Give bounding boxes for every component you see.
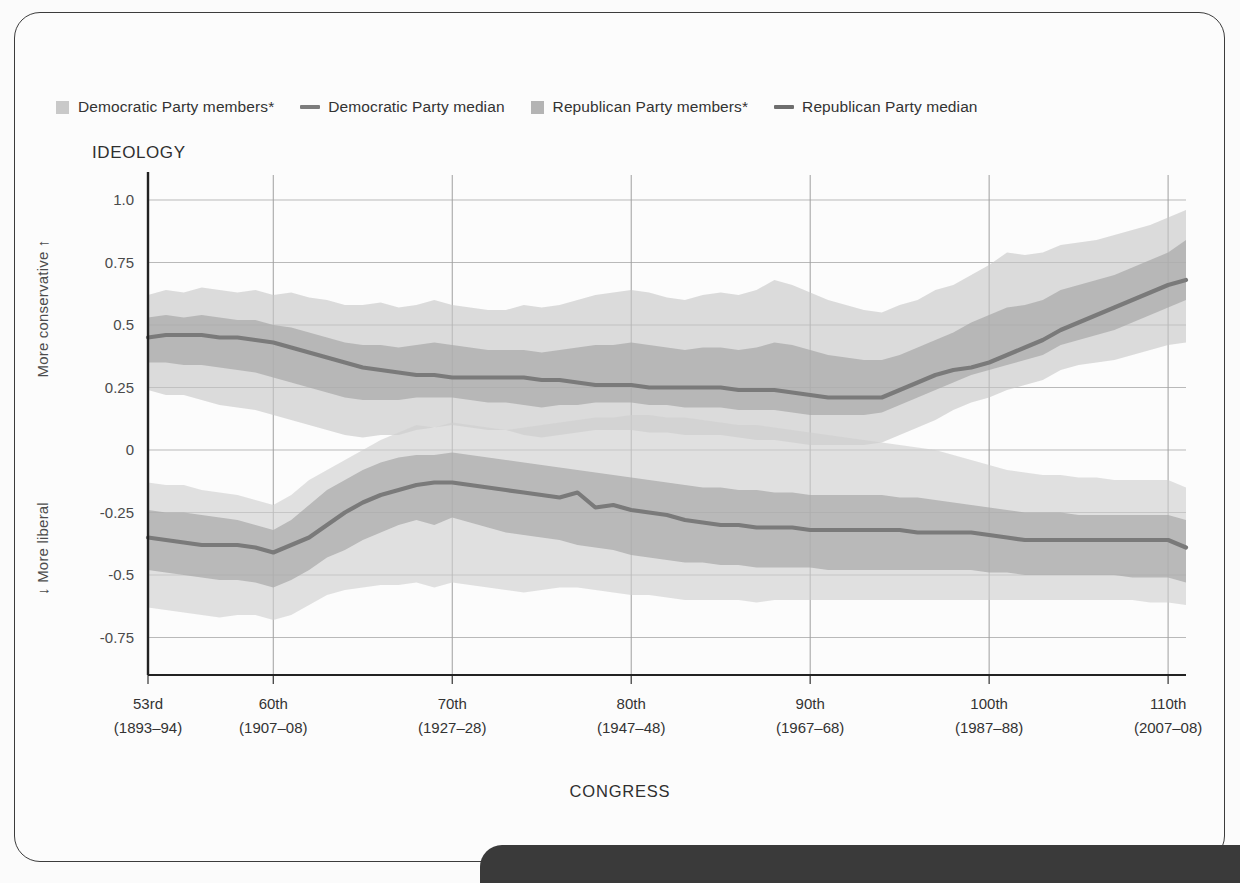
x-axis-tick-years: (1967–68)	[776, 719, 844, 736]
y-axis-tick-label: 1.0	[113, 191, 134, 208]
y-axis-tick-label: 0.25	[105, 379, 134, 396]
x-axis-tick-years: (1987–88)	[955, 719, 1023, 736]
bottom-banner	[480, 845, 1240, 883]
ideology-chart: 1.00.750.50.250-0.25-0.5-0.7553rd(1893–9…	[0, 0, 1240, 883]
y-axis-tick-label: -0.75	[100, 629, 134, 646]
y-axis-tick-label: 0	[126, 441, 134, 458]
x-axis-tick-years: (1907–08)	[239, 719, 307, 736]
x-axis-tick-label: 80th	[617, 695, 646, 712]
x-axis-tick-label: 60th	[259, 695, 288, 712]
x-axis-tick-years: (1947–48)	[597, 719, 665, 736]
x-axis-tick-label: 90th	[796, 695, 825, 712]
y-axis-tick-label: 0.75	[105, 254, 134, 271]
x-axis-tick-years: (2007–08)	[1134, 719, 1202, 736]
y-axis-tick-label: 0.5	[113, 316, 134, 333]
y-axis-tick-label: -0.25	[100, 504, 134, 521]
x-axis-tick-label: 70th	[438, 695, 467, 712]
x-axis-title: CONGRESS	[0, 782, 1240, 801]
x-axis-tick-years: (1893–94)	[114, 719, 182, 736]
x-axis-tick-label: 110th	[1150, 695, 1186, 712]
y-axis-tick-label: -0.5	[108, 566, 134, 583]
x-axis-tick-label: 100th	[970, 695, 1008, 712]
x-axis-tick-years: (1927–28)	[418, 719, 486, 736]
x-axis-tick-label: 53rd	[133, 695, 163, 712]
